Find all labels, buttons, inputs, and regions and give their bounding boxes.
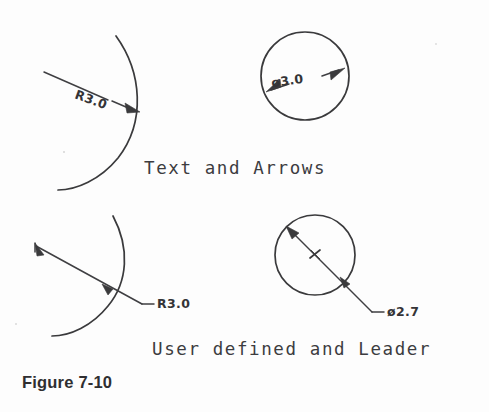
arc-top-left	[58, 36, 137, 190]
panel-bottom-right: ø2.7	[275, 215, 419, 319]
arrowhead-right-top-right	[330, 68, 345, 80]
leader-line-bottom-right	[288, 228, 372, 312]
figure-page: R3.0 ø3.0 Text and Arrows	[0, 0, 489, 412]
diameter-dimension-bottom-right: ø2.7	[387, 304, 419, 319]
scan-speck	[63, 151, 65, 153]
caption-text-arrows: Text and Arrows	[144, 158, 326, 178]
technical-drawing-canvas: R3.0 ø3.0 Text and Arrows	[0, 0, 489, 412]
panel-top-right: ø3.0	[261, 32, 349, 120]
arc-bottom-left	[52, 216, 124, 336]
radius-dimension-top-left: R3.0	[73, 87, 109, 113]
leader-line-bottom-left	[36, 246, 142, 304]
leader-landing-top-left	[112, 101, 126, 107]
panel-top-left: R3.0	[44, 36, 140, 190]
diameter-dimension-top-right: ø3.0	[270, 71, 304, 90]
scan-speck	[15, 323, 17, 325]
figure-label: Figure 7-10	[22, 373, 112, 391]
radius-dimension-bottom-left: R3.0	[157, 296, 190, 311]
panel-bottom-left: R3.0	[35, 216, 190, 336]
caption-user-defined-leader: User defined and Leader	[152, 339, 431, 359]
scan-speck	[435, 43, 437, 45]
